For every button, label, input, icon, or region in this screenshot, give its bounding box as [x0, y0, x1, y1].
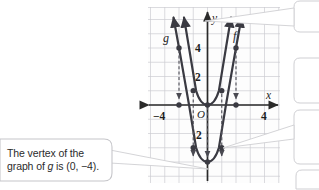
point-g-neg1-n3 — [191, 145, 196, 150]
y-axis-label: y — [211, 12, 218, 25]
point-f-2-4 — [233, 45, 238, 50]
vertex-callout-line2-pre: graph of — [7, 160, 48, 172]
vertex-callout-line1: The vertex of the — [7, 147, 111, 160]
x-axis-label: x — [265, 89, 272, 101]
y-tick-label-4: 4 — [195, 42, 201, 54]
curve-g-label: g — [163, 31, 169, 45]
point-f-neg1-1 — [191, 88, 196, 93]
point-g-neg2-0 — [176, 102, 181, 107]
vertex-callout-line2: graph of g is (0, −4). — [7, 160, 111, 173]
y-tick-label-neg2: 2 — [196, 129, 202, 141]
vertex-callout-text: The vertex of the graph of g is (0, −4). — [7, 147, 111, 173]
callout-box-lower-right — [294, 110, 319, 164]
point-f-0-0 — [205, 102, 210, 107]
point-g-0-n4 — [205, 159, 210, 164]
point-f-1-1 — [219, 88, 224, 93]
vertex-callout-line2-post: is (0, −4). — [53, 160, 99, 172]
callout-box-middle-right — [294, 58, 319, 103]
x-tick-label-neg4: −4 — [153, 110, 166, 122]
x-tick-label-4: 4 — [261, 110, 267, 122]
y-tick-label-2: 2 — [195, 71, 201, 83]
point-g-2-0 — [233, 102, 238, 107]
callout-box-bottom-right — [296, 170, 319, 189]
origin-label: O — [197, 108, 205, 120]
callout-box-top-right — [294, 1, 319, 32]
figure-stage: x y O −4 4 4 2 2 f g — [0, 0, 319, 190]
point-f-neg2-4 — [176, 45, 181, 50]
